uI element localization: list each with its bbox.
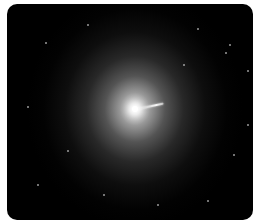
star	[233, 154, 235, 156]
star	[27, 106, 29, 108]
star	[229, 44, 231, 46]
star	[225, 52, 227, 54]
galaxy-image	[7, 4, 253, 220]
star	[103, 194, 105, 196]
galaxy-core	[132, 106, 138, 112]
galaxy-halo	[7, 4, 253, 220]
star	[197, 28, 199, 30]
star	[207, 200, 209, 202]
star	[247, 124, 249, 126]
star	[87, 24, 89, 26]
star	[45, 42, 47, 44]
star	[183, 64, 185, 66]
star	[37, 184, 39, 186]
star	[247, 70, 249, 72]
star	[67, 150, 69, 152]
star	[157, 204, 159, 206]
